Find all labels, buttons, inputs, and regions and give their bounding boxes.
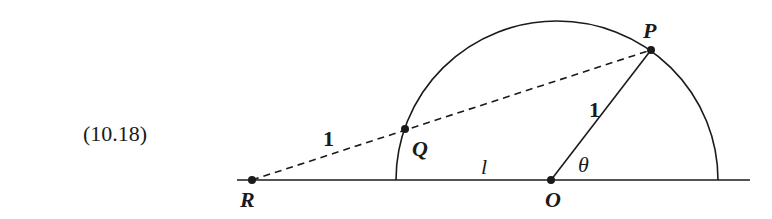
label-RQ-length: 1: [323, 126, 334, 151]
label-OP-length: 1: [589, 97, 600, 122]
equation-number: (10.18): [83, 121, 147, 146]
semicircle-arc: [396, 21, 718, 180]
label-O: O: [545, 187, 561, 212]
label-l: l: [481, 154, 487, 179]
point-O: [547, 176, 555, 184]
point-P: [647, 46, 655, 54]
label-Q: Q: [412, 136, 428, 161]
label-P: P: [642, 18, 657, 43]
label-R: R: [239, 187, 255, 212]
point-Q: [401, 125, 409, 133]
semicircle-diagram: (10.18) R Q O P 1 1 l θ: [0, 0, 772, 219]
label-theta: θ: [578, 152, 589, 177]
radius-OP: [551, 50, 651, 180]
point-R: [248, 176, 256, 184]
